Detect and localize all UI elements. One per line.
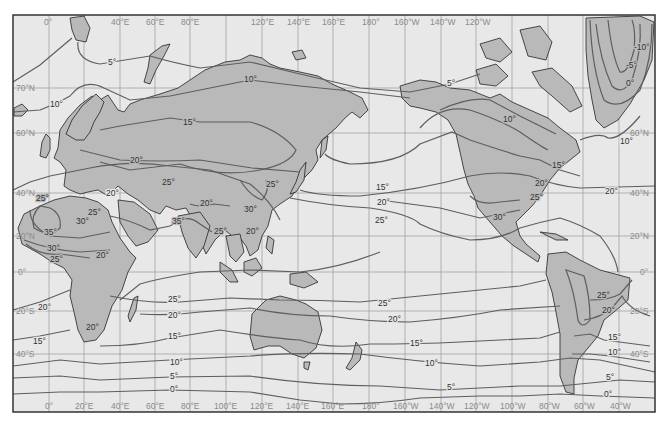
svg-text:120°W: 120°W xyxy=(465,17,491,27)
svg-text:35°: 35° xyxy=(44,227,57,237)
svg-text:25°: 25° xyxy=(530,192,543,202)
svg-text:20°: 20° xyxy=(377,197,390,207)
svg-text:0°: 0° xyxy=(18,267,26,277)
svg-text:15°: 15° xyxy=(552,160,565,170)
svg-text:20°S: 20°S xyxy=(16,306,35,316)
svg-text:0°: 0° xyxy=(604,389,612,399)
svg-text:25°: 25° xyxy=(597,290,610,300)
svg-text:80°E: 80°E xyxy=(181,401,200,411)
svg-text:25°: 25° xyxy=(168,294,181,304)
svg-text:40°N: 40°N xyxy=(630,188,649,198)
svg-text:60°N: 60°N xyxy=(630,128,649,138)
svg-text:60°N: 60°N xyxy=(16,128,35,138)
svg-text:100°E: 100°E xyxy=(214,401,238,411)
svg-text:40°S: 40°S xyxy=(630,349,649,359)
svg-text:70°N: 70°N xyxy=(16,83,35,93)
svg-text:15°: 15° xyxy=(183,117,196,127)
svg-text:25°: 25° xyxy=(375,215,388,225)
svg-text:15°: 15° xyxy=(376,182,389,192)
svg-text:20°: 20° xyxy=(535,178,548,188)
svg-text:5°: 5° xyxy=(447,382,455,392)
svg-text:20°: 20° xyxy=(96,250,109,260)
svg-text:20°: 20° xyxy=(86,322,99,332)
svg-text:25°: 25° xyxy=(266,179,279,189)
svg-text:5°: 5° xyxy=(170,371,178,381)
svg-text:20°N: 20°N xyxy=(16,231,35,241)
svg-text:25°: 25° xyxy=(378,298,391,308)
svg-text:60°E: 60°E xyxy=(146,17,165,27)
svg-text:80°E: 80°E xyxy=(181,17,200,27)
svg-text:180°: 180° xyxy=(362,17,380,27)
svg-text:10°: 10° xyxy=(170,357,183,367)
svg-text:160°W: 160°W xyxy=(393,401,419,411)
svg-text:-5°: -5° xyxy=(626,60,637,70)
svg-text:5°: 5° xyxy=(606,372,614,382)
svg-text:25°: 25° xyxy=(36,193,49,203)
svg-text:20°E: 20°E xyxy=(75,401,94,411)
svg-text:25°: 25° xyxy=(50,254,63,264)
svg-text:20°: 20° xyxy=(602,305,615,315)
svg-text:15°: 15° xyxy=(33,336,46,346)
svg-text:10°: 10° xyxy=(425,358,438,368)
svg-text:120°E: 120°E xyxy=(250,401,274,411)
svg-text:20°: 20° xyxy=(388,314,401,324)
svg-text:20°N: 20°N xyxy=(630,231,649,241)
svg-text:160°E: 160°E xyxy=(322,17,346,27)
svg-text:40°E: 40°E xyxy=(111,17,130,27)
svg-text:25°: 25° xyxy=(162,177,175,187)
svg-text:30°: 30° xyxy=(47,243,60,253)
svg-text:80°W: 80°W xyxy=(539,401,560,411)
svg-text:40°E: 40°E xyxy=(111,401,130,411)
svg-text:0°: 0° xyxy=(45,401,53,411)
svg-text:0°: 0° xyxy=(44,17,52,27)
isotherm-world-map: 5° 10° 15° 10° 5° 10° 0° -5° -10° 10° 20… xyxy=(0,0,667,429)
svg-text:60°E: 60°E xyxy=(146,401,165,411)
svg-text:15°: 15° xyxy=(168,331,181,341)
svg-text:0°: 0° xyxy=(626,78,634,88)
svg-text:20°: 20° xyxy=(106,188,119,198)
svg-text:140°W: 140°W xyxy=(430,17,456,27)
svg-text:15°: 15° xyxy=(410,338,423,348)
svg-text:120°W: 120°W xyxy=(464,401,490,411)
svg-text:5°: 5° xyxy=(447,78,455,88)
svg-text:40°W: 40°W xyxy=(610,401,631,411)
svg-text:-10°: -10° xyxy=(634,42,650,52)
svg-text:140°W: 140°W xyxy=(429,401,455,411)
svg-text:140°E: 140°E xyxy=(287,17,311,27)
svg-text:160°E: 160°E xyxy=(321,401,345,411)
svg-text:15°: 15° xyxy=(608,332,621,342)
svg-text:30°: 30° xyxy=(76,216,89,226)
svg-text:60°W: 60°W xyxy=(574,401,595,411)
svg-text:0°: 0° xyxy=(640,267,648,277)
svg-text:120°E: 120°E xyxy=(251,17,275,27)
svg-text:20°: 20° xyxy=(168,310,181,320)
svg-text:10°: 10° xyxy=(50,99,63,109)
svg-text:20°: 20° xyxy=(200,198,213,208)
svg-text:30°: 30° xyxy=(244,204,257,214)
svg-text:10°: 10° xyxy=(608,347,621,357)
svg-text:40°S: 40°S xyxy=(16,349,35,359)
svg-text:20°: 20° xyxy=(246,226,259,236)
svg-text:30°: 30° xyxy=(493,212,506,222)
svg-text:0°: 0° xyxy=(170,384,178,394)
svg-text:20°S: 20°S xyxy=(630,306,649,316)
svg-text:20°: 20° xyxy=(130,155,143,165)
svg-text:20°: 20° xyxy=(605,186,618,196)
svg-text:35°: 35° xyxy=(172,216,185,226)
svg-text:25°: 25° xyxy=(214,226,227,236)
svg-text:5°: 5° xyxy=(108,57,116,67)
svg-text:140°E: 140°E xyxy=(286,401,310,411)
svg-text:180°: 180° xyxy=(362,401,380,411)
svg-text:160°W: 160°W xyxy=(394,17,420,27)
svg-text:10°: 10° xyxy=(244,74,257,84)
svg-text:20°: 20° xyxy=(38,302,51,312)
svg-text:40°N: 40°N xyxy=(16,188,35,198)
svg-text:10°: 10° xyxy=(503,114,516,124)
svg-text:25°: 25° xyxy=(88,207,101,217)
svg-text:100°W: 100°W xyxy=(500,401,526,411)
